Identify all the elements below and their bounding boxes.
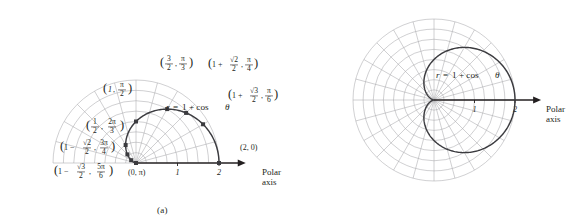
point-label-theta-3pi4: (1 −√22,3π4) — [60, 138, 115, 156]
point-label-theta-pi6: (1 +√32,π6) — [228, 86, 278, 104]
fraction-pi-over-6: π6 — [265, 86, 273, 104]
paren-open: ( — [86, 118, 90, 132]
fraction-pi-over-3: π3 — [179, 54, 187, 72]
axis-tick-label: 2 — [217, 168, 221, 177]
polar-axis-arrowhead — [533, 96, 541, 103]
point-marker-theta-pi6 — [201, 122, 205, 126]
grid-spoke — [115, 83, 136, 163]
polar-axis-arrowhead — [238, 159, 246, 166]
point-label-theta-5pi6: (1 −√32,5π6) — [54, 162, 113, 180]
label-term: 1 − — [58, 167, 69, 176]
caption-a: (a) — [157, 205, 168, 215]
point-markers-a — [124, 107, 221, 165]
equation-rhs: 1 + cos — [182, 102, 209, 112]
label-comma: , — [261, 91, 263, 100]
paren-close: ) — [111, 139, 115, 153]
fraction-three-pi-over-4: 3π4 — [100, 138, 108, 156]
fraction-one-half: 12 — [91, 117, 99, 135]
point-label-theta-pi: (0, π) — [128, 168, 146, 177]
svg-text:4: 4 — [247, 64, 251, 73]
point-marker-theta-5pi6 — [129, 158, 133, 162]
grid-spoke — [136, 122, 208, 164]
point-label-text: (0, π) — [128, 168, 146, 177]
axis-tick-label: 1 — [175, 168, 179, 177]
svg-text:2: 2 — [252, 95, 256, 104]
svg-text:3: 3 — [181, 63, 185, 72]
fraction-sqrt2-over-2: √22 — [83, 138, 91, 156]
paren-close: ) — [128, 81, 132, 95]
polar-axis-a: 12 — [136, 159, 246, 176]
polar-axis-label-line1: Polar — [262, 167, 281, 177]
fraction-sqrt2-over-2: √22 — [230, 55, 238, 73]
svg-text:4: 4 — [102, 147, 106, 156]
fraction-two-pi-over-3: 2π3 — [108, 117, 116, 135]
svg-text:2: 2 — [167, 63, 171, 72]
equation-label-b: r=1 + cosθ — [436, 70, 500, 80]
equation-theta: θ — [225, 102, 230, 112]
grid-spoke — [136, 83, 157, 163]
polar-axis-label-line1: Polar — [546, 104, 565, 114]
axis-tick-label: 1 — [472, 105, 476, 114]
label-term: 1 + — [212, 60, 223, 69]
svg-text:3: 3 — [110, 126, 114, 135]
equation-equals: = — [173, 102, 178, 112]
equation-theta: θ — [495, 70, 500, 80]
polar-axis-b: 12 — [434, 96, 541, 114]
svg-text:2: 2 — [120, 89, 124, 98]
point-label-theta-0: (2, 0) — [240, 143, 258, 152]
polar-axis-label-line2: axis — [262, 177, 277, 187]
svg-text:6: 6 — [99, 171, 103, 180]
label-comma: , — [175, 59, 177, 68]
point-marker-theta-3pi4 — [125, 152, 129, 156]
point-marker-theta-pi — [134, 161, 138, 165]
paren-close: ) — [189, 55, 193, 69]
paren-close: ) — [109, 163, 113, 177]
svg-text:2: 2 — [85, 147, 89, 156]
fraction-five-pi-over-6: 5π6 — [97, 162, 105, 180]
fraction-pi-over-2: π2 — [118, 80, 126, 98]
svg-text:2: 2 — [93, 126, 97, 135]
point-marker-theta-2pi3 — [124, 143, 128, 147]
panel-a-text-layer: r=1 + cosθPolaraxis(2, 0)(0, π)(1 +√22,π… — [54, 54, 281, 187]
fraction-sqrt3-over-2: √32 — [77, 162, 85, 180]
paren-open: ( — [103, 81, 107, 95]
point-marker-theta-0 — [217, 161, 221, 165]
svg-text:6: 6 — [267, 95, 271, 104]
equation-rhs: 1 + cos — [452, 70, 479, 80]
fraction-pi-over-4: π4 — [245, 55, 253, 73]
fraction-sqrt3-over-2: √32 — [250, 86, 258, 104]
point-label-text: (2, 0) — [240, 143, 258, 152]
point-label-theta-pi3: (32,π3) — [160, 54, 193, 72]
equation-r: r — [166, 102, 170, 112]
panel-b: 12 r=1 + cosθPolaraxis (b) — [290, 0, 569, 221]
label-term: 1 — [108, 85, 112, 94]
label-comma: , — [101, 122, 103, 131]
label-comma: , — [241, 60, 243, 69]
label-comma: , — [94, 143, 96, 152]
panel-a: 12 r=1 + cosθPolaraxis(2, 0)(0, π)(1 +√2… — [0, 0, 300, 221]
paren-open: ( — [160, 55, 164, 69]
point-marker-theta-pi2 — [134, 120, 138, 124]
panel-b-text-layer: r=1 + cosθPolaraxis — [436, 70, 565, 124]
equation-label-a: r=1 + cosθ — [166, 102, 230, 112]
label-comma: , — [89, 167, 91, 176]
paren-close: ) — [120, 118, 124, 132]
label-comma: , — [113, 85, 115, 94]
polar-axis-label-line2: axis — [546, 114, 561, 124]
grid-spoke — [136, 91, 178, 163]
svg-text:2: 2 — [232, 64, 236, 73]
fraction-three-halves: 32 — [165, 54, 173, 72]
svg-text:2: 2 — [79, 171, 83, 180]
point-label-theta-pi2: (1,π2) — [103, 80, 132, 98]
paren-close: ) — [254, 56, 258, 70]
label-term: 1 + — [232, 91, 243, 100]
point-label-theta-pi4: (1 +√22,π4) — [208, 55, 258, 73]
panel-b-plot: 12 r=1 + cosθPolaraxis — [290, 0, 569, 200]
equation-r: r — [436, 70, 440, 80]
grid-spoke — [136, 142, 216, 163]
paren-close: ) — [274, 87, 278, 101]
label-term: 1 − — [64, 143, 75, 152]
polar-cardioid-figure: 12 r=1 + cosθPolaraxis(2, 0)(0, π)(1 +√2… — [0, 0, 569, 221]
panel-a-plot: 12 r=1 + cosθPolaraxis(2, 0)(0, π)(1 +√2… — [0, 0, 300, 200]
equation-equals: = — [443, 70, 448, 80]
